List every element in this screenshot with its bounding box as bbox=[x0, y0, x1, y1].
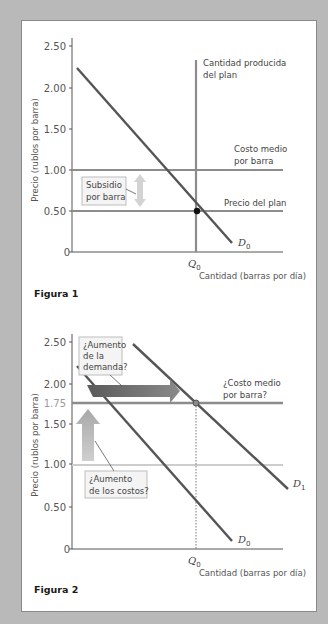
fig1-demand-curve-d0 bbox=[77, 68, 232, 243]
fig2-cost-increase-label-2: de los costos? bbox=[89, 486, 149, 496]
fig1-ytick-0: 0 bbox=[64, 247, 70, 258]
fig2-title: Figura 2 bbox=[34, 584, 78, 595]
fig2-demand-increase-arrow-icon bbox=[87, 379, 180, 403]
fig1-x-axis-label: Cantidad (barras por día) bbox=[199, 271, 306, 281]
fig2-ytick-0: 0 bbox=[64, 544, 70, 555]
fig1-ytick-0.50: 0.50 bbox=[44, 206, 66, 217]
fig2-ytick-2.50: 2.50 bbox=[44, 337, 66, 348]
fig2-demand-increase-label-2: de la bbox=[83, 351, 104, 361]
fig2-q0-label: Q0 bbox=[188, 555, 201, 569]
fig1-plan-price-label: Precio del plan bbox=[224, 198, 287, 208]
fig2-ytick-1.50: 1.50 bbox=[44, 419, 66, 430]
fig2-y-axis-label: Precio (rublos por barra) bbox=[30, 393, 40, 497]
fig1-equilibrium-point bbox=[194, 208, 200, 214]
fig1-planned-qty-label-2: del plan bbox=[203, 70, 237, 80]
fig1-subsidy-arrow-icon bbox=[134, 174, 146, 207]
figure-2: Precio (rublos por barra) 2.50 2.00 1.75… bbox=[30, 334, 306, 595]
fig2-ytick-2.00: 2.00 bbox=[44, 379, 66, 390]
fig1-d0-label: D0 bbox=[237, 237, 251, 251]
fig2-avg-cost-label-1: ¿Costo medio bbox=[223, 378, 281, 388]
fig2-demand-increase-pointer bbox=[110, 375, 122, 386]
fig1-avg-cost-label-2: por barra bbox=[234, 156, 273, 166]
fig1-ytick-1.00: 1.00 bbox=[44, 165, 66, 176]
fig1-subsidy-label-1: Subsidio bbox=[86, 180, 122, 190]
charts-canvas: Precio (rublos por barra) 2.50 2.00 1.50… bbox=[0, 0, 328, 624]
fig2-d0-label: D0 bbox=[237, 534, 251, 548]
fig2-d1-label: D1 bbox=[292, 478, 306, 492]
fig1-ytick-1.50: 1.50 bbox=[44, 124, 66, 135]
fig2-x-axis-label: Cantidad (barras por día) bbox=[199, 568, 306, 578]
fig1-planned-qty-label-1: Cantidad producida bbox=[203, 58, 286, 68]
fig1-ytick-2.00: 2.00 bbox=[44, 83, 66, 94]
figure-1: Precio (rublos por barra) 2.50 2.00 1.50… bbox=[30, 38, 306, 299]
fig2-avg-cost-label-2: por barra? bbox=[223, 390, 267, 400]
fig2-ytick-1.75: 1.75 bbox=[44, 398, 66, 409]
fig1-q0-label: Q0 bbox=[188, 258, 201, 272]
fig1-avg-cost-label-1: Costo medio bbox=[234, 144, 287, 154]
fig1-ytick-2.50: 2.50 bbox=[44, 41, 66, 52]
fig2-cost-increase-pointer bbox=[95, 441, 114, 471]
fig2-demand-increase-label-1: ¿Aumento bbox=[83, 340, 126, 350]
fig2-equilibrium-point bbox=[193, 400, 199, 406]
fig2-demand-curve-d1 bbox=[133, 344, 288, 489]
fig2-ytick-0.50: 0.50 bbox=[44, 502, 66, 513]
fig1-subsidy-label-2: por barra bbox=[86, 192, 125, 202]
fig1-subsidy-pointer bbox=[126, 189, 136, 194]
fig1-y-axis-label: Precio (rublos por barra) bbox=[30, 98, 40, 202]
fig2-ytick-1.00: 1.00 bbox=[44, 459, 66, 470]
fig1-title: Figura 1 bbox=[34, 288, 78, 299]
fig2-cost-increase-label-1: ¿Aumento bbox=[89, 474, 132, 484]
fig2-cost-increase-arrow-icon bbox=[76, 409, 100, 461]
fig2-demand-increase-label-3: demanda? bbox=[83, 362, 128, 372]
